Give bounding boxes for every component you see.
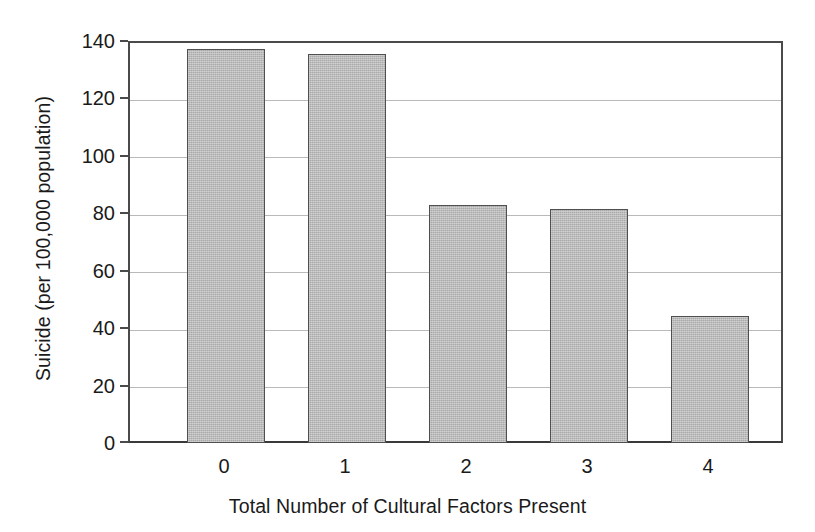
x-tick-label-0: 0: [184, 455, 264, 478]
x-tick-label-2: 2: [426, 455, 506, 478]
y-tick-label-80: 80: [93, 202, 115, 225]
bar-category-4[interactable]: [671, 316, 749, 443]
y-tick-mark-140: [120, 40, 128, 42]
x-tick-label-3: 3: [547, 455, 627, 478]
y-tick-label-140: 140: [82, 30, 115, 53]
x-tick-label-4: 4: [668, 455, 748, 478]
bar-category-3[interactable]: [550, 209, 628, 443]
y-tick-mark-80: [120, 212, 128, 214]
y-tick-label-0: 0: [104, 432, 115, 455]
bar-category-0[interactable]: [187, 49, 265, 443]
bar-category-2[interactable]: [429, 205, 507, 443]
y-axis-title: Suicide (per 100,000 population): [26, 17, 60, 460]
plot-area: [128, 41, 783, 443]
y-tick-mark-40: [120, 327, 128, 329]
y-tick-label-120: 120: [82, 87, 115, 110]
x-axis-title: Total Number of Cultural Factors Present: [0, 495, 815, 518]
y-tick-label-60: 60: [93, 260, 115, 283]
y-tick-mark-120: [120, 97, 128, 99]
bar-category-1[interactable]: [308, 54, 386, 443]
y-tick-mark-20: [120, 385, 128, 387]
bar-chart-figure: Suicide (per 100,000 population) 140 120…: [0, 0, 815, 532]
y-tick-label-40: 40: [93, 317, 115, 340]
y-tick-mark-0: [120, 441, 128, 443]
y-tick-mark-100: [120, 155, 128, 157]
y-tick-label-20: 20: [93, 375, 115, 398]
y-tick-mark-60: [120, 270, 128, 272]
y-tick-label-100: 100: [82, 145, 115, 168]
x-tick-label-1: 1: [305, 455, 385, 478]
